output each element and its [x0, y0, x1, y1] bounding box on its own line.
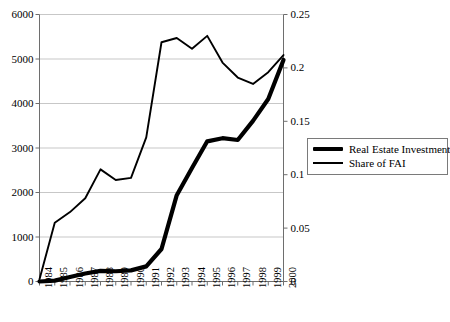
legend-item-share-of-fai: Share of FAI — [313, 156, 442, 170]
x-axis-tick-label: 1986 — [75, 267, 86, 288]
x-axis-tick-label: 1993 — [181, 267, 192, 288]
x-axis-tick-label: 1999 — [273, 267, 284, 288]
series-line-real-estate-investment — [40, 60, 284, 282]
legend-label-share-of-fai: Share of FAI — [349, 157, 406, 169]
x-axis-tick-label: 1991 — [151, 267, 162, 288]
y-axis-right-tick-label: 0.25 — [291, 9, 310, 20]
y-axis-left-tick-label: 5000 — [12, 54, 34, 65]
x-axis-tick-label: 1992 — [166, 267, 177, 288]
y-axis-right-tick-label: 0.1 — [291, 169, 305, 180]
legend-item-real-estate-investment: Real Estate Investment — [313, 142, 442, 156]
chart-legend: Real Estate Investment Share of FAI — [307, 138, 448, 175]
x-axis-tick-label: 1990 — [136, 267, 147, 288]
x-axis-tick-label: 1998 — [258, 267, 269, 288]
y-axis-right-tick-label: 0.05 — [291, 223, 310, 234]
y-axis-left-tick-label: 2000 — [12, 187, 34, 198]
y-axis-left-tick-label: 6000 — [12, 9, 34, 20]
y-axis-left-tick-label: 3000 — [12, 143, 34, 154]
x-axis-tick-label: 1989 — [120, 267, 131, 288]
series-lines — [40, 36, 284, 282]
x-axis-tick-label: 1988 — [105, 267, 116, 288]
x-axis-tick-label: 2000 — [288, 267, 299, 288]
x-axis-tick-label: 1997 — [242, 267, 253, 288]
y-axis-left-tick-label: 1000 — [12, 232, 34, 243]
y-axis-right-tick-label: 0.2 — [291, 62, 305, 73]
chart-container: 0100020003000400050006000 00.050.10.150.… — [0, 0, 450, 322]
thick-line-swatch-icon — [313, 147, 343, 151]
y-axis-left-tick-label: 4000 — [12, 98, 34, 109]
x-axis-tick-label: 1985 — [59, 267, 70, 288]
x-axis-tick-label: 1987 — [90, 267, 101, 288]
x-axis-tick-label: 1995 — [212, 267, 223, 288]
y-axis-right-tick-label: 0.15 — [291, 116, 310, 127]
x-axis-tick-label: 1984 — [44, 267, 55, 288]
legend-label-real-estate-investment: Real Estate Investment — [349, 143, 450, 155]
thin-line-swatch-icon — [313, 162, 343, 164]
y-axis-left-tick-label: 0 — [28, 276, 34, 287]
x-axis-tick-label: 1994 — [197, 267, 208, 288]
x-axis-tick-label: 1996 — [227, 267, 238, 288]
